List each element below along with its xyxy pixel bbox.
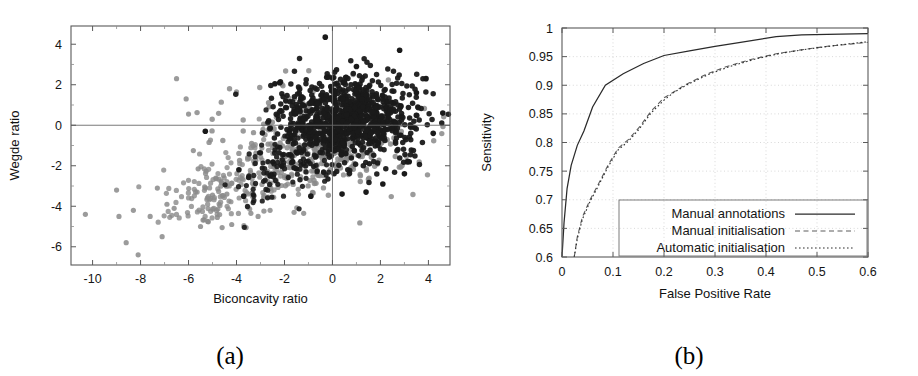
- scatter-point: [348, 58, 354, 64]
- scatter-point: [229, 211, 234, 216]
- y-tick-label: 0.85: [529, 107, 553, 121]
- scatter-point: [166, 186, 171, 191]
- scatter-point: [212, 195, 217, 200]
- scatter-point: [324, 71, 330, 77]
- scatter-point: [218, 200, 223, 205]
- scatter-point: [312, 140, 318, 146]
- y-tick-label: -2: [51, 159, 62, 173]
- scatter-point: [425, 122, 431, 128]
- scatter-point: [240, 117, 245, 122]
- scatter-point: [194, 110, 199, 115]
- scatter-point: [269, 195, 274, 200]
- two-panel-figure: -10-8-6-4-2024420-2-4-6Biconcavity ratio…: [0, 0, 918, 376]
- scatter-point: [364, 150, 370, 156]
- scatter-point: [322, 158, 327, 163]
- x-tick-label: -2: [279, 272, 290, 286]
- scatter-point: [342, 79, 348, 85]
- scatter-point: [304, 169, 309, 174]
- legend-label: Manual annotations: [672, 206, 786, 221]
- scatter-point: [325, 176, 331, 182]
- scatter-point: [131, 208, 136, 213]
- y-tick-label: 0: [55, 119, 62, 133]
- scatter-point: [309, 99, 315, 105]
- scatter-point: [402, 171, 408, 177]
- scatter-point: [439, 131, 444, 136]
- scatter-point: [412, 125, 418, 130]
- scatter-point: [227, 172, 232, 177]
- y-tick-label: 0.8: [536, 136, 553, 150]
- scatter-point: [253, 154, 258, 159]
- scatter-point: [331, 75, 337, 81]
- scatter-point: [407, 92, 413, 98]
- scatter-point: [368, 122, 374, 128]
- scatter-point: [290, 179, 295, 184]
- scatter-point: [257, 85, 262, 90]
- scatter-point: [186, 178, 191, 183]
- scatter-point: [327, 136, 333, 142]
- scatter-point: [295, 172, 300, 177]
- scatter-point: [261, 208, 266, 213]
- scatter-point: [256, 214, 261, 219]
- scatter-point: [291, 165, 297, 171]
- scatter-point: [196, 207, 201, 212]
- scatter-point: [206, 219, 211, 224]
- x-tick-label: -6: [183, 272, 194, 286]
- scatter-point: [410, 192, 415, 197]
- y-tick-label: 0.95: [529, 50, 553, 64]
- scatter-point: [209, 161, 214, 166]
- y-tick-label: 0.65: [529, 222, 553, 236]
- x-tick-label: 0: [329, 272, 336, 286]
- scatter-point: [313, 153, 319, 159]
- panel-b-canvas: 00.10.20.30.40.50.60.60.650.70.750.80.85…: [460, 0, 918, 376]
- scatter-point: [275, 182, 280, 187]
- scatter-point: [261, 170, 266, 175]
- scatter-point: [172, 206, 177, 211]
- scatter-point: [305, 152, 310, 157]
- panel-a-caption-wrap: (a): [0, 342, 460, 370]
- scatter-point: [356, 153, 361, 158]
- panel-b-caption: (b): [674, 342, 703, 369]
- scatter-point: [404, 83, 410, 89]
- scatter-point: [257, 116, 262, 121]
- scatter-point: [271, 159, 276, 164]
- scatter-point: [409, 83, 415, 89]
- scatter-point: [281, 194, 286, 199]
- scatter-point: [283, 183, 288, 188]
- scatter-point: [385, 66, 391, 72]
- scatter-point: [303, 77, 309, 83]
- scatter-point: [275, 113, 281, 119]
- scatter-point: [370, 78, 376, 84]
- scatter-point: [402, 135, 408, 141]
- scatter-point: [380, 99, 386, 105]
- scatter-point: [220, 138, 225, 143]
- scatter-point: [265, 141, 270, 146]
- scatter-point: [358, 173, 363, 178]
- scatter-point: [355, 129, 361, 135]
- scatter-point: [319, 83, 325, 89]
- scatter-point: [389, 194, 394, 199]
- scatter-point: [306, 68, 311, 73]
- scatter-point: [291, 210, 296, 215]
- scatter-point: [303, 176, 308, 181]
- scatter-point: [114, 187, 119, 192]
- scatter-point: [347, 171, 353, 177]
- scatter-point: [406, 159, 412, 165]
- scatter-point: [267, 182, 272, 187]
- scatter-point: [206, 194, 211, 199]
- scatter-point: [297, 177, 303, 183]
- y-tick-label: 0.9: [536, 79, 553, 93]
- scatter-point: [391, 68, 397, 74]
- y-tick-label: -4: [51, 200, 62, 214]
- scatter-point: [321, 185, 326, 190]
- scatter-point: [300, 184, 305, 189]
- scatter-point: [369, 89, 375, 95]
- scatter-point: [281, 162, 286, 167]
- scatter-point: [411, 118, 417, 124]
- scatter-point: [174, 76, 179, 81]
- scatter-point: [379, 136, 385, 142]
- scatter-point: [429, 117, 435, 123]
- scatter-point: [425, 172, 430, 177]
- scatter-point: [166, 209, 171, 214]
- scatter-point: [296, 187, 301, 192]
- scatter-point: [189, 196, 194, 201]
